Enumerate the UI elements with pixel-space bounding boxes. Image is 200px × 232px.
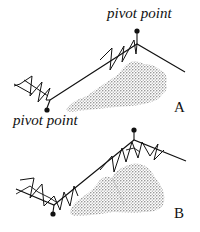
- spring-upper-b-2: [126, 148, 140, 152]
- spring-axis-a-left-2: [24, 80, 48, 96]
- pivot-point-lower-b: [50, 211, 55, 216]
- panel-label-a: A: [174, 100, 185, 115]
- pivot-point-label-upper-a: pivot point: [107, 6, 172, 21]
- pivot-point-label-lower-a: pivot point: [13, 113, 78, 128]
- pivot-stem-lower-b: [53, 205, 54, 212]
- pivot-point-upper-b: [131, 127, 136, 132]
- panel-a: [14, 28, 185, 112]
- pivot-stem-lower-a: [47, 100, 50, 108]
- panel-b: [16, 127, 186, 216]
- shaded-region-b: [70, 164, 164, 216]
- panel-label-b: B: [174, 206, 184, 221]
- shaded-region-a: [66, 61, 167, 111]
- spring-axis-a-left: [14, 84, 32, 94]
- pivot-point-upper-a: [134, 28, 139, 33]
- spring-left-a: [14, 76, 50, 102]
